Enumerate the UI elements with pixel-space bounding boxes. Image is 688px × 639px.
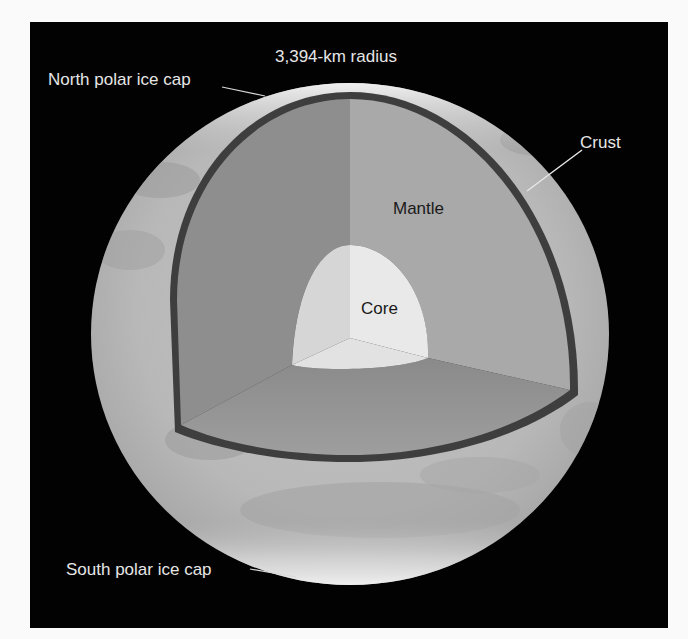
south-polar-ice-cap-label: South polar ice cap	[66, 560, 212, 579]
radius-label: 3,394-km radius	[275, 47, 397, 66]
crust-label: Crust	[580, 133, 621, 152]
mars-interior-diagram: 3,394-km radius North polar ice cap Crus…	[0, 0, 688, 639]
north-cap-leader	[222, 87, 265, 96]
core-label: Core	[361, 299, 398, 318]
mantle-label: Mantle	[393, 199, 444, 218]
north-polar-ice-cap-label: North polar ice cap	[48, 70, 191, 89]
